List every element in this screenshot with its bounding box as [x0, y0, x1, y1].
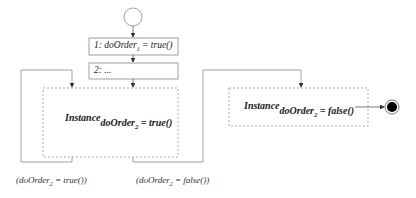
instance-false-keyword: Instance [244, 100, 280, 111]
instance-true-var: doOrder [101, 117, 135, 128]
guard-true-rest: = true()) [55, 175, 87, 185]
action-2-label: 2: ... [94, 65, 111, 75]
instance-true-label: InstancedoOrder2 = true() [65, 112, 172, 123]
action-1-rest: = true() [142, 40, 172, 50]
guard-true-sub: 2 [50, 181, 53, 187]
guard-true-open: (doOrder [16, 175, 50, 185]
guard-true-label: (doOrder2 = true()) [16, 175, 87, 185]
guard-false-open: (doOrder [136, 175, 170, 185]
instance-false-label: InstancedoOrder2 = false() [244, 100, 354, 111]
action-2-prefix: 2: [94, 65, 102, 75]
guard-false-sub: 2 [170, 181, 173, 187]
instance-true-keyword: Instance [65, 112, 101, 123]
instance-false-var: doOrder [280, 105, 314, 116]
action-1-prefix: 1: [94, 40, 102, 50]
action-1-label: 1: doOrder1 = true() [94, 40, 172, 50]
instance-false-rest: = false() [317, 105, 354, 116]
diagram-canvas [0, 0, 416, 198]
guard-false-label: (doOrder2 = false()) [136, 175, 209, 185]
instance-true-rest: = true() [138, 117, 172, 128]
guard-false-rest: = false()) [175, 175, 209, 185]
final-node-dot [387, 102, 397, 112]
initial-node [124, 8, 142, 26]
action-1-var: doOrder [104, 40, 136, 50]
action-2-text: ... [104, 65, 111, 75]
action-1-sub: 1 [137, 46, 140, 52]
